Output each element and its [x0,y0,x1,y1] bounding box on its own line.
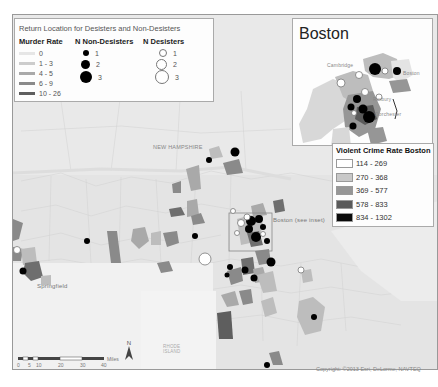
desister-label: 2 [173,61,177,68]
swatch [336,200,353,209]
non-desister-label: 1 [95,50,99,57]
desisters-header: N Desisters [143,37,184,46]
murder-rate-header: Murder Rate [19,37,71,46]
swatch [336,213,353,222]
svg-text:10: 10 [36,362,42,368]
label-roxbury: Roxbury [373,97,391,102]
non-desister-label: 3 [98,74,102,81]
desister-item: 2 [143,58,184,70]
svg-text:20: 20 [58,362,64,368]
label-new-hampshire: NEW HAMPSHIRE [153,144,203,150]
violent-crime-label: 834 - 1302 [356,213,392,222]
north-arrow-icon [124,346,134,360]
murder-rate-label: 4 - 5 [39,70,53,77]
murder-rate-label: 6 - 9 [39,80,53,87]
violent-crime-item: 114 - 269 [336,157,430,171]
boston-inset-svg [293,19,433,146]
swatch [336,159,353,168]
non-desisters-legend: N Non-Desisters 1 2 3 [75,37,139,98]
violent-crime-item: 369 - 577 [336,184,430,198]
murder-rate-legend: Murder Rate 0 1 - 3 4 - 5 6 - 9 10 - 26 [19,37,71,98]
violent-crime-legend: Violent Crime Rate Boston 114 - 269 270 … [332,143,434,227]
map-legend: Return Location for Desisters and Non-De… [14,18,214,102]
violent-crime-label: 270 - 368 [356,173,388,182]
murder-rate-item: 6 - 9 [19,78,71,88]
murder-rate-label: 0 [39,50,43,57]
hollow-circle-icon [159,49,167,57]
murder-rate-label: 10 - 26 [39,90,61,97]
desister-label: 1 [173,50,177,57]
svg-text:Miles: Miles [107,356,119,362]
desister-item: 1 [143,48,184,58]
violent-crime-header: Violent Crime Rate Boston [336,146,430,155]
filled-circle-icon [81,60,90,69]
murder-rate-item: 4 - 5 [19,68,71,78]
non-desister-item: 1 [75,48,139,58]
boston-inset: Boston [292,18,433,146]
murder-rate-item: 1 - 3 [19,58,71,68]
scale-bar-svg: 0 5 10 20 30 40 Miles N [16,355,156,383]
swatch [19,72,35,75]
murder-rate-item: 0 [19,48,71,58]
non-desisters-header: N Non-Desisters [75,37,139,46]
svg-text:0: 0 [17,362,20,368]
desisters-legend: N Desisters 1 2 3 [143,37,184,98]
svg-text:40: 40 [101,362,107,368]
non-desister-item: 3 [75,70,139,84]
desister-label: 3 [175,74,179,81]
murder-rate-label: 1 - 3 [39,60,53,67]
legend-title: Return Location for Desisters and Non-De… [19,24,209,33]
filled-circle-icon [80,71,92,83]
swatch [19,52,35,55]
violent-crime-label: 369 - 577 [356,186,388,195]
copyright-text: Copyright: ©2013 Esri, DeLorme, NAVTEQ [316,366,421,372]
svg-text:5: 5 [28,362,31,368]
violent-crime-label: 114 - 269 [356,159,387,168]
label-boston: Boston [403,70,420,76]
swatch [19,92,35,95]
non-desister-label: 2 [96,61,100,68]
label-boston-see-inset: Boston (see inset) [273,217,325,223]
non-desister-item: 2 [75,58,139,70]
swatch [336,173,353,182]
swatch [19,62,35,65]
label-dorchester: Dorchester [375,111,401,117]
north-arrow: N [124,340,134,364]
violent-crime-item: 270 - 368 [336,171,430,185]
label-cambridge: Cambridge [327,62,353,68]
hollow-circle-icon [156,59,167,70]
violent-crime-item: 578 - 833 [336,198,430,212]
label-rhode-island: RHODE ISLAND [163,344,187,354]
label-springfield: Springfield [37,283,68,289]
map-figure: NEW HAMPSHIRE Springfield Boston (see in… [0,0,438,387]
violent-crime-label: 578 - 833 [356,200,388,209]
desister-item: 3 [143,70,184,84]
filled-circle-icon [83,50,89,56]
swatch [19,82,35,85]
swatch [336,186,353,195]
murder-rate-item: 10 - 26 [19,88,71,98]
scale-bar: 0 5 10 20 30 40 Miles N [16,355,156,387]
violent-crime-item: 834 - 1302 [336,211,430,225]
hollow-circle-icon [155,70,169,84]
svg-text:30: 30 [80,362,86,368]
